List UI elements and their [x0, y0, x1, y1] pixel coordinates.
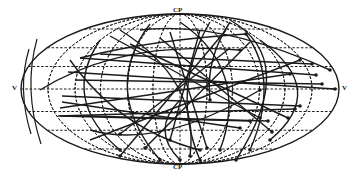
track-endpoint — [298, 104, 302, 108]
track-endpoint — [298, 58, 302, 62]
track-endpoint — [158, 158, 162, 162]
track-endpoint — [320, 82, 324, 86]
track-endpoint — [218, 148, 222, 152]
track-endpoint — [118, 148, 122, 152]
track-line — [90, 60, 300, 140]
track-endpoint — [268, 138, 272, 142]
track-endpoint — [188, 154, 192, 158]
track-endpoint — [248, 148, 252, 152]
track-endpoint — [178, 158, 182, 162]
top-pole-label: CP — [173, 7, 182, 14]
track-endpoint — [333, 87, 337, 91]
track-endpoint — [234, 158, 238, 162]
track-endpoint — [248, 119, 252, 123]
track-endpoint — [143, 146, 147, 150]
bottom-pole-label: CP — [173, 164, 182, 171]
track-endpoint — [266, 119, 270, 123]
sky-projection-diagram: CP CP V V — [0, 0, 359, 178]
coordinate-grid — [21, 14, 339, 164]
track-endpoint — [208, 98, 212, 102]
right-edge-label: V — [342, 85, 347, 92]
track-endpoint — [270, 130, 274, 134]
trajectory-tracks — [40, 20, 337, 162]
track-endpoint — [238, 126, 242, 130]
track-endpoint — [238, 48, 242, 52]
left-inner-boundary — [23, 49, 31, 134]
track-endpoint — [118, 154, 122, 158]
projection-canvas — [0, 0, 359, 178]
track-endpoint — [205, 146, 209, 150]
left-edge-label: V — [12, 85, 17, 92]
track-endpoint — [258, 88, 262, 92]
track-endpoint — [198, 148, 202, 152]
track-endpoint — [198, 158, 202, 162]
track-endpoint — [314, 73, 318, 77]
track-endpoint — [328, 68, 332, 72]
